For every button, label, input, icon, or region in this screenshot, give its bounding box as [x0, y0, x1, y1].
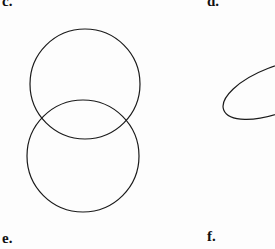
figure-canvas [0, 0, 275, 249]
figure-label-d: d. [207, 0, 219, 9]
tilted-ellipse-figure [215, 48, 275, 131]
two-overlapping-circles-figure [27, 29, 140, 212]
figure-label-c: c. [2, 0, 12, 9]
figure-label-e: e. [2, 231, 12, 246]
figure-label-f: f. [207, 229, 216, 244]
upper-circle [30, 29, 140, 139]
tilted-ellipse [215, 48, 275, 131]
figure-page: c. d. e. f. [0, 0, 275, 249]
lower-circle [27, 100, 139, 212]
